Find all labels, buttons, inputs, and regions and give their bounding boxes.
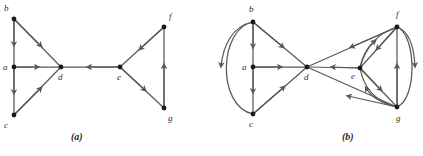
vertex-label-e-b: e xyxy=(351,71,355,81)
panel-a-edges xyxy=(14,19,164,115)
edge-c-d-arrow-b xyxy=(253,87,284,114)
graph-diagram: a b c d e f g xyxy=(0,0,423,156)
panel-a-graph: a b c d e f g xyxy=(3,3,173,130)
vertex-label-c: c xyxy=(4,120,8,130)
vertex-g xyxy=(162,106,167,111)
edge-e-g-arrow xyxy=(120,67,145,90)
vertex-d xyxy=(59,65,64,70)
vertex-a xyxy=(12,65,17,70)
edge-f-e-arrow xyxy=(140,27,164,49)
edge-b-d-arrow xyxy=(14,19,41,46)
edge-b-c-curved-arrow xyxy=(221,22,253,66)
edge-b-c-curved xyxy=(226,22,253,114)
edge-f-e-arrow-b xyxy=(377,27,397,49)
vertex-label-d: d xyxy=(58,72,63,82)
vertex-b xyxy=(12,17,17,22)
vertex-label-b-b: b xyxy=(249,4,254,14)
vertex-g-b xyxy=(395,105,400,110)
vertex-label-a: a xyxy=(3,62,8,72)
panel-a-caption: (a) xyxy=(71,131,83,142)
panel-b-vertices xyxy=(251,20,400,117)
vertex-b-b xyxy=(251,20,256,25)
panel-b-edges xyxy=(221,22,415,114)
vertex-label-g: g xyxy=(168,113,173,123)
vertex-a-b xyxy=(251,65,256,70)
vertex-label-e: e xyxy=(117,72,121,82)
vertex-e-b xyxy=(358,66,363,71)
vertex-e xyxy=(118,65,123,70)
vertex-label-b: b xyxy=(4,3,9,13)
vertex-label-a-b: a xyxy=(242,62,247,72)
vertex-f-b xyxy=(395,25,400,30)
figure-container: a b c d e f g xyxy=(0,0,423,156)
edge-c-d-arrow xyxy=(14,88,41,115)
vertex-label-f: f xyxy=(169,11,173,21)
vertex-label-g-b: g xyxy=(396,113,401,123)
vertex-f xyxy=(162,25,167,30)
edge-b-d-arrow-b xyxy=(253,22,283,47)
vertex-label-c-b: c xyxy=(249,119,253,129)
vertex-c xyxy=(12,113,17,118)
panel-b-graph: a b c d e f g xyxy=(221,4,415,129)
panel-b-caption: (b) xyxy=(342,131,354,142)
vertex-label-f-b: f xyxy=(396,9,400,19)
vertex-label-d-b: d xyxy=(304,72,309,82)
vertex-c-b xyxy=(251,112,256,117)
vertex-d-b xyxy=(305,65,310,70)
